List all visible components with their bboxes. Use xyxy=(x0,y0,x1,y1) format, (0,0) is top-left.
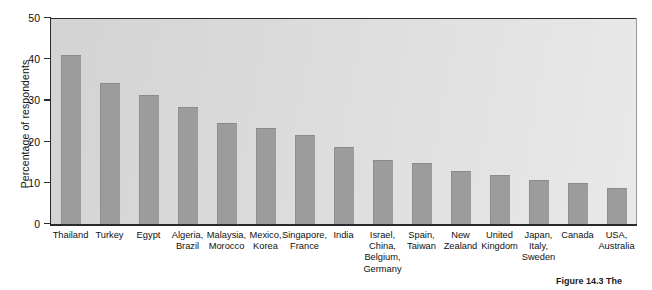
bar xyxy=(490,175,510,224)
y-tick-0: 0 xyxy=(0,217,50,231)
bar xyxy=(334,147,354,224)
y-tick-label: 20 xyxy=(28,135,40,149)
bar-chart-figure: Percentage of respondents 01020304050 Th… xyxy=(0,0,652,290)
y-tick-mark xyxy=(44,223,50,224)
y-tick-label: 50 xyxy=(28,11,40,25)
bar xyxy=(217,123,237,224)
bar xyxy=(568,183,588,224)
figure-caption: Figure 14.3 The xyxy=(556,276,652,288)
y-tick-10: 10 xyxy=(0,176,50,190)
bar xyxy=(256,128,276,224)
y-tick-30: 30 xyxy=(0,93,50,107)
y-tick-label: 30 xyxy=(28,93,40,107)
y-tick-label: 0 xyxy=(34,217,40,231)
bar xyxy=(607,188,627,224)
bar xyxy=(451,171,471,224)
bar xyxy=(295,135,315,224)
bar xyxy=(61,55,81,224)
y-tick-mark xyxy=(44,99,50,100)
y-tick-50: 50 xyxy=(0,11,50,25)
bar xyxy=(373,160,393,224)
x-axis-label: USA, Australia xyxy=(593,230,640,252)
y-tick-20: 20 xyxy=(0,135,50,149)
y-tick-mark xyxy=(44,17,50,18)
y-tick-mark xyxy=(44,182,50,183)
plot-right-border xyxy=(636,18,637,225)
y-tick-mark xyxy=(44,58,50,59)
y-tick-40: 40 xyxy=(0,52,50,66)
y-tick-label: 10 xyxy=(28,176,40,190)
bar xyxy=(100,83,120,224)
bar xyxy=(178,107,198,224)
bar xyxy=(139,95,159,224)
x-axis-line xyxy=(50,224,637,226)
y-tick-mark xyxy=(44,141,50,142)
bar xyxy=(529,180,549,224)
bar xyxy=(412,163,432,224)
y-tick-label: 40 xyxy=(28,52,40,66)
